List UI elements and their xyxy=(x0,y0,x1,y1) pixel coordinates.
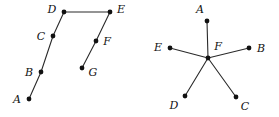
graph-vertex-star-graph-B xyxy=(247,46,252,51)
graph-edge-path-graph-FG xyxy=(82,41,96,68)
graph-vertex-star-graph-F xyxy=(206,56,211,61)
graph-vertex-star-graph-C xyxy=(234,95,239,100)
graph-vertex-path-graph-G xyxy=(80,66,85,71)
graph-vertex-star-graph-D xyxy=(183,94,188,99)
vertex-label-star-graph-A: A xyxy=(196,4,204,15)
graph-edge-star-graph-FD xyxy=(185,58,208,96)
graph-drawing-surface xyxy=(0,0,279,117)
vertex-label-path-graph-E: E xyxy=(117,4,125,15)
edges-layer xyxy=(29,12,249,99)
graph-vertex-path-graph-D xyxy=(62,10,67,15)
graph-edge-path-graph-CD xyxy=(53,12,64,36)
graph-vertex-path-graph-F xyxy=(94,39,99,44)
vertex-label-path-graph-D: D xyxy=(48,4,57,15)
graph-edge-star-graph-FC xyxy=(208,58,236,97)
graph-edge-star-graph-FA xyxy=(207,21,208,58)
vertex-label-star-graph-F: F xyxy=(214,41,222,52)
vertex-label-star-graph-D: D xyxy=(170,100,179,111)
graph-vertex-path-graph-E xyxy=(108,10,113,15)
vertex-label-path-graph-A: A xyxy=(13,94,21,105)
graph-vertex-star-graph-A xyxy=(205,19,210,24)
vertex-label-path-graph-C: C xyxy=(37,31,45,42)
graph-vertex-path-graph-B xyxy=(39,70,44,75)
vertex-label-path-graph-B: B xyxy=(25,67,33,78)
vertex-label-path-graph-G: G xyxy=(89,67,98,78)
graph-vertex-path-graph-C xyxy=(51,34,56,39)
figure-canvas: ABCDEFGABCDEF xyxy=(0,0,279,117)
vertex-label-star-graph-C: C xyxy=(241,101,249,112)
graph-edge-star-graph-FE xyxy=(170,48,208,58)
vertex-label-path-graph-F: F xyxy=(103,36,111,47)
vertex-label-star-graph-E: E xyxy=(154,42,162,53)
graph-vertex-path-graph-A xyxy=(27,97,32,102)
vertex-label-star-graph-B: B xyxy=(257,43,265,54)
graph-vertex-star-graph-E xyxy=(168,46,173,51)
